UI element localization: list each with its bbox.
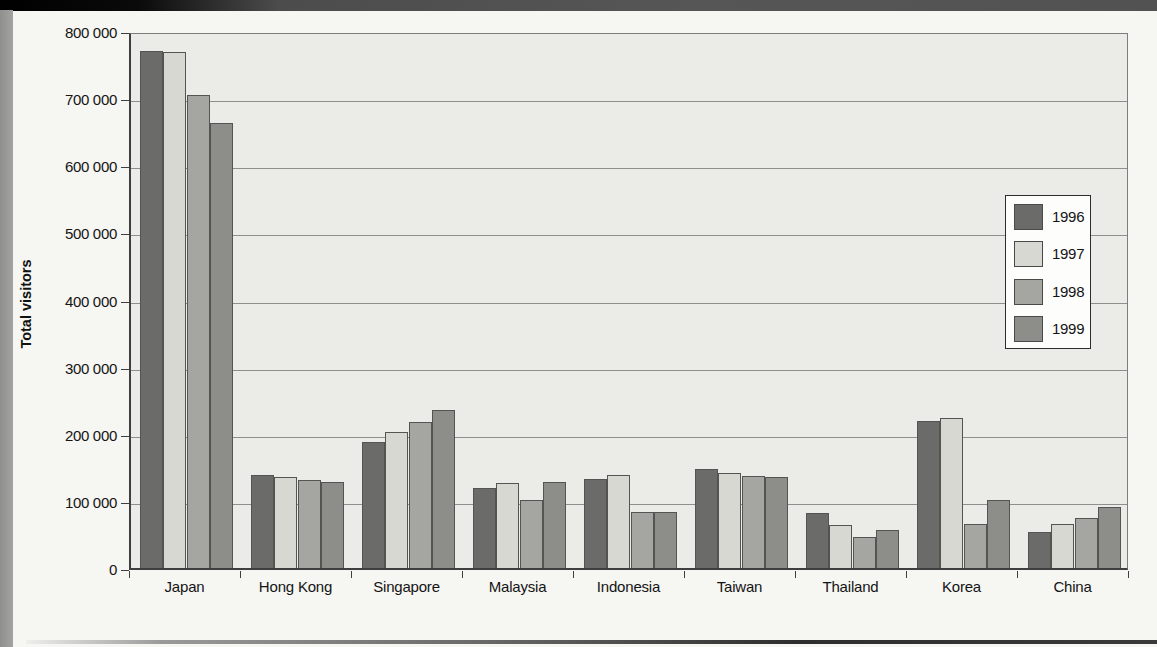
x-category-label: Hong Kong [240,578,351,595]
bar-1999-malaysia [543,482,566,568]
bar-1999-thailand [876,530,899,568]
x-category-label: Indonesia [573,578,684,595]
x-category-label: Taiwan [684,578,795,595]
gridline [131,370,1127,371]
y-tick [121,503,129,504]
y-tick-label: 700 000 [17,91,117,109]
y-tick [121,302,129,303]
bar-1997-thailand [829,525,852,568]
bar-1996-indonesia [584,479,607,568]
bar-1999-china [1098,507,1121,568]
y-tick-label: 400 000 [17,293,117,311]
y-tick-label: 0 [17,561,117,579]
bar-1996-hong-kong [251,475,274,568]
x-category-label: Thailand [795,578,906,595]
x-tick [906,571,907,578]
bar-1998-taiwan [742,476,765,568]
bar-1999-indonesia [654,512,677,568]
x-tick [795,571,796,578]
x-category-label: Singapore [351,578,462,595]
header-band [0,0,1157,11]
y-tick [121,369,129,370]
x-tick [462,571,463,578]
y-tick [121,33,129,34]
x-category-label: Malaysia [462,578,573,595]
y-tick-label: 600 000 [17,158,117,176]
bar-1996-singapore [362,442,385,568]
legend-label: 1996 [1052,208,1084,225]
bar-1996-thailand [806,513,829,568]
bar-1996-taiwan [695,469,718,568]
bar-1997-malaysia [496,483,519,568]
y-tick [121,234,129,235]
y-tick-label: 100 000 [17,494,117,512]
plot-area [129,33,1128,570]
bar-1997-hong-kong [274,477,297,568]
bar-1997-indonesia [607,475,630,568]
x-tick [129,571,130,578]
bar-1996-japan [140,51,163,568]
bar-1996-china [1028,532,1051,568]
legend: 1996199719981999 [1005,195,1091,349]
legend-label: 1998 [1052,283,1084,300]
y-tick-label: 200 000 [17,427,117,445]
bar-1996-malaysia [473,488,496,568]
scanned-page: Total visitors 0100 000200 000300 000400… [0,0,1157,647]
x-category-label: China [1017,578,1128,595]
bar-1997-singapore [385,432,408,568]
x-category-label: Japan [129,578,240,595]
x-tick [684,571,685,578]
gridline [131,101,1127,102]
page-edge-strip [0,10,13,647]
bar-1998-korea [964,524,987,568]
bar-1999-korea [987,500,1010,568]
legend-swatch-1998 [1014,279,1043,305]
bar-1998-singapore [409,422,432,568]
x-tick [240,571,241,578]
y-tick-label: 500 000 [17,225,117,243]
legend-label: 1997 [1052,245,1084,262]
legend-swatch-1997 [1014,241,1043,267]
gridline [131,303,1127,304]
legend-item: 1998 [1006,279,1090,306]
x-tick [573,571,574,578]
bar-1997-japan [163,52,186,568]
bar-1999-japan [210,123,233,568]
bottom-page-rule [26,640,1157,644]
bar-1997-taiwan [718,473,741,568]
y-tick-label: 800 000 [17,24,117,42]
legend-swatch-1996 [1014,204,1043,230]
bar-1999-singapore [432,410,455,568]
legend-item: 1997 [1006,241,1090,268]
y-tick-label: 300 000 [17,360,117,378]
bar-1996-korea [917,421,940,568]
bar-1997-korea [940,418,963,568]
x-tick [1128,571,1129,578]
x-tick [1017,571,1018,578]
bar-1997-china [1051,524,1074,568]
bar-1999-hong-kong [321,482,344,568]
bar-1999-taiwan [765,477,788,568]
x-tick [351,571,352,578]
legend-swatch-1999 [1014,316,1043,342]
gridline [131,235,1127,236]
legend-label: 1999 [1052,320,1084,337]
y-tick [121,436,129,437]
bar-1998-malaysia [520,500,543,568]
bar-1998-thailand [853,537,876,568]
y-tick [121,100,129,101]
x-category-label: Korea [906,578,1017,595]
bar-1998-indonesia [631,512,654,568]
legend-item: 1999 [1006,316,1090,343]
legend-item: 1996 [1006,204,1090,231]
gridline [131,437,1127,438]
gridline [131,168,1127,169]
bar-1998-hong-kong [298,480,321,568]
y-tick [121,570,129,571]
y-tick [121,167,129,168]
bar-1998-japan [187,95,210,568]
bar-1998-china [1075,518,1098,568]
